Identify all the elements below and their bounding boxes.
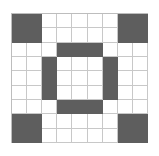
filled-cell xyxy=(27,114,42,128)
empty-cell xyxy=(103,43,118,57)
empty-cell xyxy=(27,43,42,57)
filled-cell xyxy=(118,14,133,28)
empty-cell xyxy=(57,14,72,28)
filled-cell xyxy=(57,100,72,114)
empty-cell xyxy=(72,57,87,71)
empty-cell xyxy=(88,14,103,28)
empty-cell xyxy=(72,114,87,128)
filled-cell xyxy=(118,129,133,143)
empty-cell xyxy=(118,57,133,71)
empty-cell xyxy=(118,71,133,85)
empty-cell xyxy=(12,100,27,114)
empty-cell xyxy=(103,129,118,143)
empty-cell xyxy=(72,28,87,42)
empty-cell xyxy=(12,71,27,85)
filled-cell xyxy=(88,100,103,114)
filled-cell xyxy=(72,100,87,114)
filled-cell xyxy=(27,14,42,28)
filled-cell xyxy=(72,43,87,57)
empty-cell xyxy=(118,100,133,114)
filled-cell xyxy=(42,57,57,71)
filled-cell xyxy=(57,43,72,57)
filled-cell xyxy=(27,129,42,143)
filled-cell xyxy=(103,86,118,100)
empty-cell xyxy=(12,57,27,71)
empty-cell xyxy=(72,129,87,143)
filled-cell xyxy=(12,14,27,28)
empty-cell xyxy=(12,86,27,100)
empty-cell xyxy=(57,71,72,85)
empty-cell xyxy=(88,114,103,128)
empty-cell xyxy=(88,28,103,42)
empty-cell xyxy=(103,100,118,114)
filled-cell xyxy=(133,129,148,143)
empty-cell xyxy=(133,43,148,57)
filled-cell xyxy=(42,86,57,100)
empty-cell xyxy=(42,114,57,128)
filled-cell xyxy=(12,114,27,128)
empty-cell xyxy=(57,86,72,100)
filled-cell xyxy=(42,71,57,85)
empty-cell xyxy=(42,43,57,57)
empty-cell xyxy=(88,129,103,143)
empty-cell xyxy=(57,129,72,143)
empty-cell xyxy=(27,86,42,100)
empty-cell xyxy=(88,57,103,71)
empty-cell xyxy=(42,14,57,28)
empty-cell xyxy=(133,100,148,114)
empty-cell xyxy=(12,43,27,57)
empty-cell xyxy=(88,86,103,100)
empty-cell xyxy=(133,57,148,71)
empty-cell xyxy=(72,14,87,28)
filled-cell xyxy=(27,28,42,42)
empty-cell xyxy=(103,28,118,42)
empty-cell xyxy=(88,71,103,85)
empty-cell xyxy=(133,86,148,100)
empty-cell xyxy=(42,129,57,143)
filled-cell xyxy=(118,114,133,128)
filled-cell xyxy=(103,57,118,71)
empty-cell xyxy=(27,100,42,114)
empty-cell xyxy=(57,57,72,71)
filled-cell xyxy=(12,28,27,42)
empty-cell xyxy=(103,114,118,128)
empty-cell xyxy=(57,114,72,128)
empty-cell xyxy=(27,71,42,85)
empty-cell xyxy=(118,43,133,57)
pattern-grid xyxy=(11,13,148,143)
empty-cell xyxy=(72,71,87,85)
empty-cell xyxy=(72,86,87,100)
filled-cell xyxy=(133,28,148,42)
empty-cell xyxy=(57,28,72,42)
empty-cell xyxy=(42,28,57,42)
filled-cell xyxy=(118,28,133,42)
empty-cell xyxy=(27,57,42,71)
empty-cell xyxy=(118,86,133,100)
filled-cell xyxy=(133,114,148,128)
filled-cell xyxy=(88,43,103,57)
empty-cell xyxy=(42,100,57,114)
filled-cell xyxy=(133,14,148,28)
filled-cell xyxy=(12,129,27,143)
filled-cell xyxy=(103,71,118,85)
empty-cell xyxy=(133,71,148,85)
empty-cell xyxy=(103,14,118,28)
